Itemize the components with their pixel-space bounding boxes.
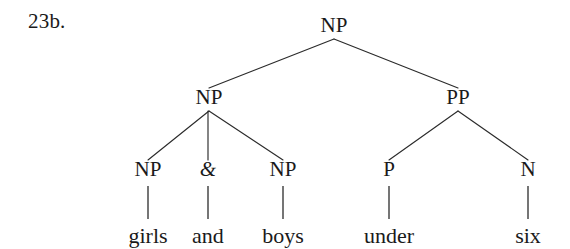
node-root-np: NP bbox=[321, 13, 348, 37]
edge-pp-to-p bbox=[389, 111, 458, 160]
edge-pp-to-n bbox=[458, 111, 528, 160]
node-left-np: NP bbox=[196, 85, 223, 109]
edge-root-np-to-left-np bbox=[209, 39, 334, 88]
leaf-word-and: and bbox=[192, 223, 224, 248]
node-np-a: NP bbox=[135, 157, 162, 181]
node-np-b: NP bbox=[270, 157, 297, 181]
edge-left-np-to-np-a bbox=[148, 111, 209, 160]
leaf-word-under: under bbox=[364, 223, 415, 248]
edge-root-np-to-pp bbox=[334, 39, 458, 88]
node-n: N bbox=[520, 157, 535, 181]
leaf-word-girls: girls bbox=[128, 223, 167, 248]
node-pp: PP bbox=[446, 85, 469, 109]
edge-left-np-to-np-b bbox=[209, 111, 283, 160]
leaf-word-six: six bbox=[515, 223, 541, 248]
node-p: P bbox=[383, 157, 395, 181]
leaf-word-boys: boys bbox=[262, 223, 304, 248]
syntax-tree-diagram: NP NP PP NP & NP P N girls and boys unde… bbox=[0, 0, 570, 249]
syntax-tree-svg: NP NP PP NP & NP P N girls and boys unde… bbox=[0, 0, 570, 249]
node-conjunction-ampersand: & bbox=[200, 157, 217, 181]
